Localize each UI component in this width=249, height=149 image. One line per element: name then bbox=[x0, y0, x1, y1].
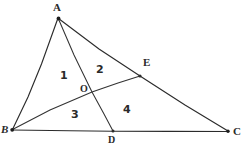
point-label-o: O bbox=[80, 84, 88, 94]
region-label-4: 4 bbox=[123, 104, 131, 115]
segment-ab bbox=[13, 18, 59, 130]
region-label-1: 1 bbox=[60, 70, 68, 81]
vertex-dot-a bbox=[57, 17, 61, 21]
point-dot-e bbox=[138, 74, 141, 77]
segment-be bbox=[13, 76, 141, 130]
point-label-e: E bbox=[143, 57, 151, 68]
point-label-d: D bbox=[108, 135, 115, 145]
region-label-3: 3 bbox=[71, 109, 79, 120]
vertex-dot-c bbox=[226, 130, 229, 133]
point-dot-d bbox=[112, 130, 115, 133]
vertex-label-c: C bbox=[233, 126, 241, 137]
region-label-2: 2 bbox=[96, 64, 104, 75]
vertex-label-a: A bbox=[53, 2, 61, 13]
vertex-dot-b bbox=[10, 128, 14, 132]
geometry-canvas bbox=[0, 0, 249, 149]
segment-bc bbox=[12, 130, 228, 132]
geometry-figure: A B C D E O 1 2 3 4 bbox=[0, 0, 249, 149]
vertex-label-b: B bbox=[1, 124, 9, 135]
